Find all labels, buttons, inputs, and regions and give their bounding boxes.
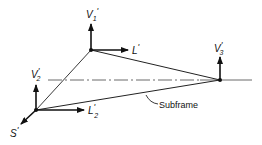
subframe-diagram: V1' L' V'3 V'2 L'2 S' Subframe xyxy=(0,0,262,145)
subframe-edge-top xyxy=(91,50,220,80)
label-l: L' xyxy=(132,42,140,56)
right-node xyxy=(218,78,222,82)
bottom-left-node xyxy=(34,108,38,112)
label-l2: L'2 xyxy=(88,102,98,119)
label-subframe: Subframe xyxy=(159,100,198,110)
top-node xyxy=(89,48,93,52)
label-v3: V'3 xyxy=(214,40,223,56)
diagram-canvas: V1' L' V'3 V'2 L'2 S' Subframe xyxy=(0,0,262,145)
label-v1: V1' xyxy=(86,6,99,22)
label-s: S' xyxy=(10,125,19,139)
subframe-leader xyxy=(146,95,158,104)
label-v2: V'2 xyxy=(31,66,40,82)
s-arrow xyxy=(21,110,36,124)
